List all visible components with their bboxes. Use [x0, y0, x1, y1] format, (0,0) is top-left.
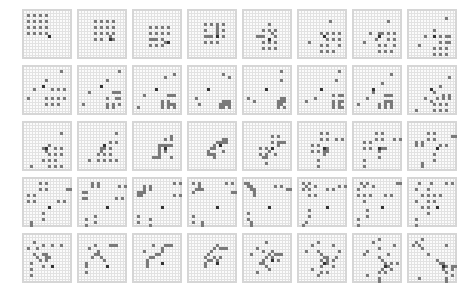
- object-cell: [118, 97, 121, 100]
- agent-cell: [323, 35, 326, 38]
- object-cell: [100, 26, 103, 29]
- object-cell: [167, 106, 170, 109]
- object-cell: [247, 97, 250, 100]
- object-cell: [222, 29, 225, 32]
- object-cell: [363, 147, 366, 150]
- object-cell: [326, 50, 329, 53]
- object-cell: [170, 138, 173, 141]
- object-cell: [207, 253, 210, 256]
- agent-cell: [106, 206, 109, 209]
- object-cell: [85, 271, 88, 274]
- agent-cell: [155, 88, 158, 91]
- object-cell: [271, 141, 274, 144]
- object-cell: [308, 182, 311, 185]
- object-cell: [115, 159, 118, 162]
- object-cell: [320, 50, 323, 53]
- object-cell: [329, 20, 332, 23]
- object-cell: [256, 247, 259, 250]
- object-cell: [97, 153, 100, 156]
- object-cell: [27, 200, 30, 203]
- object-cell: [448, 76, 451, 79]
- object-cell: [381, 132, 384, 135]
- object-cell: [106, 106, 109, 109]
- object-cell: [222, 73, 225, 76]
- object-cell: [192, 191, 195, 194]
- object-cell: [57, 200, 60, 203]
- object-cell: [39, 259, 42, 262]
- object-cell: [63, 88, 66, 91]
- object-cell: [118, 185, 121, 188]
- object-cell: [48, 144, 51, 147]
- agent-cell: [326, 206, 329, 209]
- object-cell: [439, 144, 442, 147]
- object-cell: [326, 150, 329, 153]
- object-cell: [195, 97, 198, 100]
- object-cell: [268, 23, 271, 26]
- object-cell: [415, 188, 418, 191]
- object-cell: [161, 26, 164, 29]
- object-cell: [106, 97, 109, 100]
- agent-cell: [161, 206, 164, 209]
- object-cell: [265, 241, 268, 244]
- object-cell: [357, 188, 360, 191]
- object-cell: [54, 153, 57, 156]
- object-cell: [335, 138, 338, 141]
- object-cell: [274, 35, 277, 38]
- object-cell: [274, 47, 277, 50]
- object-cell: [94, 32, 97, 35]
- object-cell: [366, 182, 369, 185]
- object-cell: [448, 35, 451, 38]
- object-cell: [375, 138, 378, 141]
- object-cell: [424, 35, 427, 38]
- object-cell: [433, 194, 436, 197]
- object-cell: [60, 244, 63, 247]
- object-cell: [54, 165, 57, 168]
- grid-panel-r5c6: [297, 233, 347, 283]
- object-cell: [210, 35, 213, 38]
- object-cell: [317, 274, 320, 277]
- object-cell: [115, 244, 118, 247]
- object-cell: [39, 26, 42, 29]
- object-cell: [421, 165, 424, 168]
- object-cell: [280, 185, 283, 188]
- object-cell: [106, 20, 109, 23]
- object-cell: [338, 44, 341, 47]
- object-cell: [167, 32, 170, 35]
- object-cell: [308, 194, 311, 197]
- object-cell: [366, 97, 369, 100]
- object-cell: [48, 256, 51, 259]
- object-cell: [42, 212, 45, 215]
- object-cell: [45, 20, 48, 23]
- object-cell: [149, 256, 152, 259]
- object-cell: [433, 132, 436, 135]
- object-cell: [27, 26, 30, 29]
- grid-panel-r5c5: [242, 233, 292, 283]
- object-cell: [213, 156, 216, 159]
- object-cell: [155, 26, 158, 29]
- object-cell: [396, 262, 399, 265]
- object-cell: [121, 197, 124, 200]
- object-cell: [115, 197, 118, 200]
- object-cell: [274, 153, 277, 156]
- object-cell: [317, 144, 320, 147]
- agent-cell: [51, 265, 54, 268]
- object-cell: [161, 106, 164, 109]
- object-cell: [317, 165, 320, 168]
- grid-panel-r4c1: [22, 177, 72, 227]
- object-cell: [378, 271, 381, 274]
- object-cell: [228, 76, 231, 79]
- object-cell: [152, 256, 155, 259]
- object-cell: [262, 156, 265, 159]
- object-cell: [311, 144, 314, 147]
- object-cell: [433, 109, 436, 112]
- object-cell: [421, 206, 424, 209]
- agent-cell: [436, 147, 439, 150]
- object-cell: [454, 265, 457, 268]
- object-cell: [326, 188, 329, 191]
- object-cell: [338, 32, 341, 35]
- grid-panel-r3c1: [22, 121, 72, 171]
- object-cell: [305, 221, 308, 224]
- object-cell: [372, 91, 375, 94]
- object-cell: [326, 132, 329, 135]
- object-cell: [271, 135, 274, 138]
